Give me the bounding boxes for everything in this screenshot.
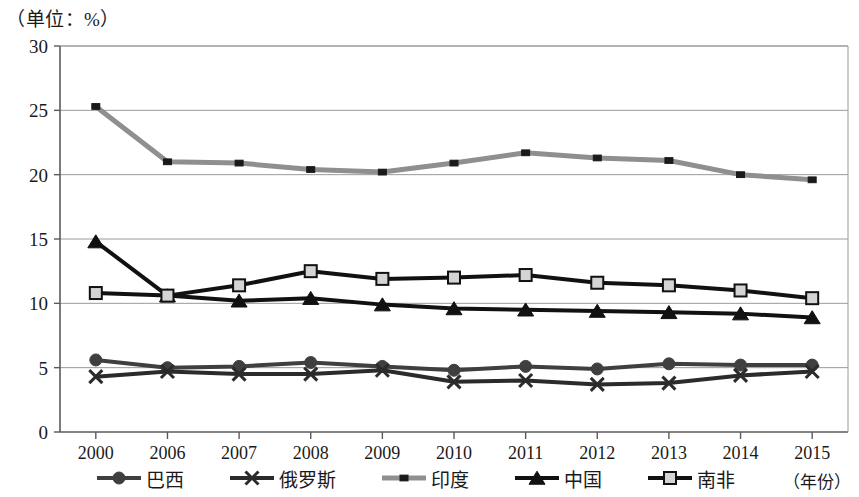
data-point-marker-open-square <box>591 277 603 289</box>
data-series-layer <box>88 104 820 391</box>
data-point-marker-small-square <box>665 158 673 164</box>
data-point-marker-open-square <box>448 272 460 284</box>
data-point-marker-circle <box>90 354 102 366</box>
data-point-marker-small-square <box>235 160 243 166</box>
data-point-marker-open-square <box>664 472 676 484</box>
legend-item-1[interactable]: 俄罗斯 <box>228 465 336 492</box>
y-tick-label: 10 <box>8 294 48 313</box>
series-line <box>96 106 812 179</box>
data-point-marker-triangle <box>88 235 104 248</box>
data-point-marker-small-square <box>400 475 408 481</box>
chart-legend: 巴西俄罗斯印度中国南非 <box>95 462 735 494</box>
legend-swatch-open-square-icon <box>646 468 694 488</box>
y-tick-label: 25 <box>8 101 48 120</box>
data-point-marker-open-square <box>520 269 532 281</box>
data-point-marker-small-square <box>522 150 530 156</box>
legend-label-2: 印度 <box>431 465 469 492</box>
data-point-marker-small-square <box>378 169 386 175</box>
legend-swatch-x-icon <box>228 468 276 488</box>
legend-item-3[interactable]: 中国 <box>513 465 602 492</box>
x-axis-title: （年份） <box>783 468 851 493</box>
line-chart: （单位：%） 051015202530 20002006200720082009… <box>0 0 859 497</box>
data-point-marker-open-square <box>735 284 747 296</box>
legend-item-4[interactable]: 南非 <box>646 465 735 492</box>
data-point-marker-small-square <box>450 160 458 166</box>
x-tick-marks <box>96 432 812 439</box>
data-point-marker-circle <box>520 360 532 372</box>
data-point-marker-small-square <box>593 155 601 161</box>
data-point-marker-open-square <box>376 273 388 285</box>
data-point-marker-circle <box>113 472 125 484</box>
gridlines <box>60 46 848 368</box>
y-tick-label: 5 <box>8 359 48 378</box>
data-point-marker-small-square <box>808 177 816 183</box>
data-point-marker-open-square <box>806 292 818 304</box>
data-point-marker-open-square <box>305 265 317 277</box>
legend-item-0[interactable]: 巴西 <box>95 465 184 492</box>
legend-label-0: 巴西 <box>146 465 184 492</box>
legend-swatch-triangle-icon <box>513 468 561 488</box>
y-tick-label: 20 <box>8 166 48 185</box>
data-point-marker-circle <box>305 357 317 369</box>
y-tick-label: 0 <box>8 423 48 442</box>
data-point-marker-small-square <box>737 172 745 178</box>
x-tick-label: 2015 <box>767 444 857 462</box>
data-point-marker-open-square <box>663 279 675 291</box>
legend-swatch-small-square-icon <box>380 468 428 488</box>
data-point-marker-small-square <box>92 104 100 110</box>
data-point-marker-small-square <box>163 159 171 165</box>
data-point-marker-small-square <box>307 167 315 173</box>
plot-area <box>0 0 859 497</box>
data-point-marker-circle <box>591 363 603 375</box>
y-tick-label: 15 <box>8 230 48 249</box>
y-tick-marks <box>54 46 60 432</box>
series-2 <box>92 104 816 183</box>
data-point-marker-open-square <box>233 279 245 291</box>
legend-swatch-circle-icon <box>95 468 143 488</box>
legend-item-2[interactable]: 印度 <box>380 465 469 492</box>
data-point-marker-circle <box>448 364 460 376</box>
data-point-marker-open-square <box>90 287 102 299</box>
data-point-marker-circle <box>663 358 675 370</box>
legend-label-3: 中国 <box>564 465 602 492</box>
data-point-marker-open-square <box>161 290 173 302</box>
y-tick-label: 30 <box>8 37 48 56</box>
legend-label-4: 南非 <box>697 465 735 492</box>
legend-label-1: 俄罗斯 <box>279 465 336 492</box>
